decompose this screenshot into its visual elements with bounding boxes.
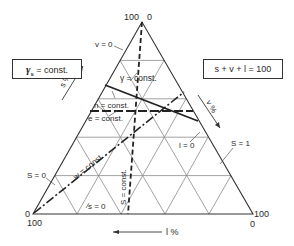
apex-right-label: 0 <box>147 12 152 22</box>
gamma-const-label: γ = const. <box>120 73 157 83</box>
l-axis-arrow <box>113 230 162 234</box>
grid <box>55 60 231 214</box>
triangle-outline <box>33 22 253 214</box>
bottom-right-top-label: 100 <box>254 209 269 219</box>
bottom-left-bottom-label: 100 <box>27 218 42 228</box>
S-const-line <box>128 22 142 214</box>
apex-left-label: 100 <box>124 12 139 22</box>
gamma-s-const-box: γs = const. <box>12 59 82 79</box>
gamma-subscript: s <box>30 71 33 77</box>
sum-equation-text: s + v + l = 100 <box>215 64 272 74</box>
S-one-label: S = 1 <box>231 139 250 148</box>
S-zero-left-label: S = 0 <box>27 171 46 180</box>
sum-equation-box: s + v + l = 100 <box>203 59 283 79</box>
w-const-label: w = const. <box>71 152 106 182</box>
e-const-label: e = const. <box>88 114 123 123</box>
ternary-diagram: 100 0 0 100 100 0 s % v % l % v = 0 S = … <box>0 0 294 246</box>
bottom-right-bottom-label: 0 <box>250 219 255 229</box>
gamma-const-text: = const. <box>36 65 68 75</box>
v-zero-label: v = 0 <box>95 40 113 49</box>
s-zero-bottom-label: s = 0 <box>88 202 106 211</box>
l-zero-label: l = 0 <box>179 141 195 150</box>
l-axis-label: l % <box>166 227 179 237</box>
S-const-label: S = const. <box>119 169 128 205</box>
n-const-label: n = const. <box>94 101 129 110</box>
v-axis-label: v % <box>204 99 218 115</box>
